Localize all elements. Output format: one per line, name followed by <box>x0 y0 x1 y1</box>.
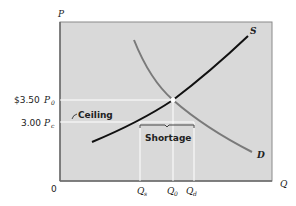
pc-label: P <box>43 118 51 128</box>
q-axis-label: Q <box>280 179 288 189</box>
p0-sub: 0 <box>51 99 55 106</box>
price-ceiling-label: 3.00 <box>21 118 41 128</box>
qd-sub: d <box>193 190 197 197</box>
price-ceiling-chart: P Q 0 $3.50 P 0 3.00 P c Ceiling Shortag… <box>0 0 296 206</box>
origin-label: 0 <box>51 184 57 194</box>
price-eq-label: $3.50 <box>14 95 40 105</box>
shortage-text: Shortage <box>145 133 191 143</box>
ceiling-text: Ceiling <box>78 110 113 120</box>
demand-label: D <box>256 150 265 160</box>
plot-area <box>60 22 272 181</box>
p-axis-label: P <box>57 9 65 19</box>
q0-sub: 0 <box>174 190 178 197</box>
qs-sub: s <box>144 190 147 197</box>
pc-sub: c <box>51 122 55 129</box>
equilibrium-point <box>171 98 175 102</box>
supply-label: S <box>250 26 257 36</box>
p0-label: P <box>43 95 51 105</box>
